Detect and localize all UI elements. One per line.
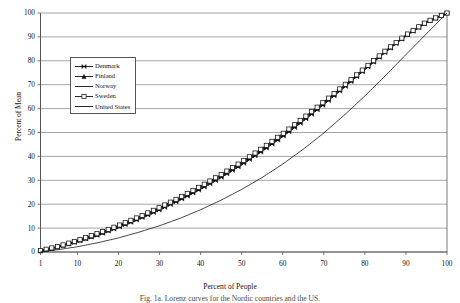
square-marker xyxy=(123,221,127,225)
square-marker xyxy=(163,203,167,207)
square-marker xyxy=(287,127,291,131)
square-marker xyxy=(411,28,415,32)
square-marker xyxy=(298,118,302,122)
x-tick-label: 1 xyxy=(27,260,55,267)
square-marker xyxy=(82,95,86,99)
square-marker xyxy=(61,243,65,247)
square-marker xyxy=(219,172,223,176)
square-marker xyxy=(117,223,121,227)
series-line xyxy=(41,13,448,251)
square-marker xyxy=(72,239,76,243)
square-marker xyxy=(202,182,206,186)
square-marker xyxy=(67,241,71,245)
square-marker xyxy=(270,139,274,143)
x-tick-label: 50 xyxy=(228,260,256,267)
x-axis-title: Percent of People xyxy=(0,282,460,291)
legend-item-label: United States xyxy=(94,104,130,111)
square-marker xyxy=(208,179,212,183)
legend-item-sweden[interactable]: Sweden xyxy=(74,92,132,102)
y-tick-label: 100 xyxy=(8,9,35,16)
legend-item-finland[interactable]: Finland xyxy=(74,71,132,81)
square-marker xyxy=(95,232,99,236)
square-marker xyxy=(276,135,280,139)
square-marker xyxy=(259,147,263,151)
x-tick-label: 30 xyxy=(146,260,174,267)
square-marker xyxy=(304,114,308,118)
square-marker xyxy=(140,213,144,217)
series-finland xyxy=(38,11,449,253)
y-axis-title: Percent of Mean xyxy=(14,72,23,162)
square-marker xyxy=(388,45,392,49)
square-marker xyxy=(434,16,438,20)
square-marker xyxy=(281,131,285,135)
square-marker xyxy=(196,185,200,189)
x-tick-label: 40 xyxy=(187,260,215,267)
series-line xyxy=(41,13,448,251)
legend-item-united-states[interactable]: United States xyxy=(74,102,132,112)
square-marker xyxy=(230,165,234,169)
y-tick-label: 80 xyxy=(8,57,35,64)
line-marker xyxy=(74,102,94,111)
triangle-marker xyxy=(74,72,94,81)
square-marker xyxy=(74,92,94,101)
square-marker xyxy=(38,248,42,252)
square-marker xyxy=(168,200,172,204)
square-marker xyxy=(264,143,268,147)
square-marker xyxy=(349,77,353,81)
square-marker xyxy=(84,236,88,240)
x-tick-label: 100 xyxy=(433,260,460,267)
square-marker xyxy=(151,208,155,212)
square-marker xyxy=(185,191,189,195)
x-tick-label: 70 xyxy=(310,260,338,267)
figure-caption: Fig. 1a. Lorenz curves for the Nordic co… xyxy=(0,294,460,303)
square-marker xyxy=(360,68,364,72)
square-marker xyxy=(253,151,257,155)
square-marker xyxy=(326,96,330,100)
square-marker xyxy=(309,110,313,114)
x-tick-label: 20 xyxy=(105,260,133,267)
square-marker xyxy=(355,73,359,77)
square-marker xyxy=(55,244,59,248)
square-marker xyxy=(332,91,336,95)
square-marker xyxy=(247,155,251,159)
square-marker xyxy=(174,197,178,201)
square-marker xyxy=(428,18,432,22)
series-norway xyxy=(41,13,448,251)
square-marker xyxy=(366,63,370,67)
square-marker xyxy=(225,169,229,173)
series-line xyxy=(41,13,448,251)
legend-item-label: Sweden xyxy=(94,93,116,100)
square-marker xyxy=(180,194,184,198)
square-marker xyxy=(146,211,150,215)
square-marker xyxy=(383,49,387,53)
bowtie-marker xyxy=(82,64,86,68)
y-tick-label: 0 xyxy=(8,248,35,255)
square-marker xyxy=(343,82,347,86)
legend-item-denmark[interactable]: Denmark xyxy=(74,61,132,71)
square-marker xyxy=(338,87,342,91)
square-marker xyxy=(101,229,105,233)
y-tick-label: 10 xyxy=(8,225,35,232)
x-tick-label: 60 xyxy=(269,260,297,267)
square-marker xyxy=(50,246,54,250)
series-denmark xyxy=(38,11,449,253)
square-marker xyxy=(106,227,110,231)
x-tick-label: 90 xyxy=(392,260,420,267)
square-marker xyxy=(112,225,116,229)
square-marker xyxy=(89,234,93,238)
square-marker xyxy=(242,158,246,162)
square-marker xyxy=(129,218,133,222)
x-tick-label: 10 xyxy=(63,260,91,267)
y-tick-label: 30 xyxy=(8,177,35,184)
legend-item-label: Finland xyxy=(94,73,115,80)
square-marker xyxy=(78,238,82,242)
square-marker xyxy=(372,59,376,63)
y-tick-label: 20 xyxy=(8,201,35,208)
square-marker xyxy=(422,21,426,25)
square-marker xyxy=(213,176,217,180)
legend-item-norway[interactable]: Norway xyxy=(74,81,132,91)
square-marker xyxy=(394,40,398,44)
legend-item-label: Norway xyxy=(94,83,116,90)
square-marker xyxy=(191,188,195,192)
